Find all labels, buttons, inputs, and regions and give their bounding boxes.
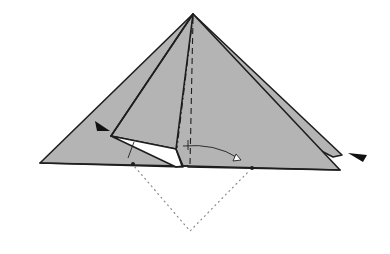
reference-dot-right	[250, 166, 254, 170]
hidden-corner-outline	[135, 167, 250, 231]
reference-dot-left	[131, 162, 135, 166]
origami-diagram	[0, 0, 390, 254]
push-arrow-right-icon	[348, 153, 367, 162]
